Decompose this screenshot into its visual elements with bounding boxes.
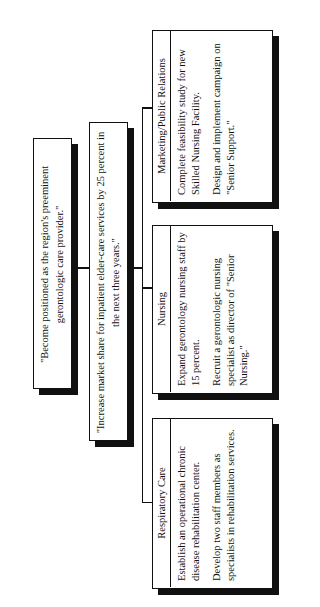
vision-statement: "Become positioned as the region's preem… xyxy=(37,145,67,384)
dept-box-respiratory: Respiratory Care Establish an operationa… xyxy=(152,418,273,589)
dept-title: Respiratory Care xyxy=(153,419,171,587)
connector-bus-marketing xyxy=(142,107,153,109)
connector-goal-bus xyxy=(127,267,142,269)
objective: Develop two staff members as specialists… xyxy=(210,425,237,581)
dept-title: Nursing xyxy=(153,226,171,392)
connector-bus xyxy=(142,107,144,503)
dept-box-marketing: Marketing/Public Relations Complete feas… xyxy=(152,30,273,203)
objective: Recruit a gerontologic nursing specialis… xyxy=(210,232,251,386)
goal-box: "Increase market share for inpatient eld… xyxy=(89,122,128,441)
vision-box: "Become positioned as the region's preem… xyxy=(33,138,72,389)
connector-bus-respiratory xyxy=(142,502,153,504)
connector-bus-nursing xyxy=(142,287,153,289)
objective: Establish an operational chronic disease… xyxy=(175,425,202,581)
dept-box-nursing: Nursing Expand gerontology nursing staff… xyxy=(152,225,273,394)
objective: Complete feasibility study for new Skill… xyxy=(175,37,202,195)
objective: Design and implement campaign on "Senior… xyxy=(210,37,237,195)
objective: Expand gerontology nursing staff by 15 p… xyxy=(175,232,202,386)
dept-title: Marketing/Public Relations xyxy=(153,31,171,201)
goal-statement: "Increase market share for inpatient eld… xyxy=(93,129,123,436)
connector-vision-goal xyxy=(71,267,89,269)
